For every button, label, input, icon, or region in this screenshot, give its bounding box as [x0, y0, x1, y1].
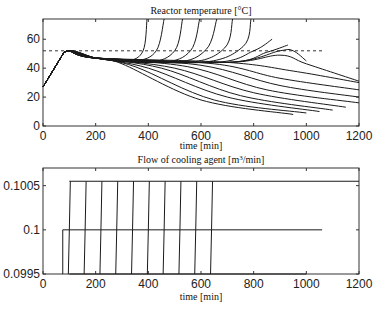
temperature-trajectory	[43, 19, 147, 87]
flow-mid-step	[63, 230, 322, 274]
x-tick-label: 200	[86, 129, 106, 143]
x-tick-label: 1000	[293, 129, 320, 143]
x-tick-label: 400	[138, 277, 158, 291]
flow-step-edge	[179, 181, 181, 274]
y-tick-label: 40	[27, 61, 41, 75]
flow-step-edge	[147, 181, 149, 274]
x-tick-label: 400	[138, 129, 158, 143]
cooling-flow-axes-box	[43, 168, 359, 274]
flow-step-edge	[116, 181, 118, 274]
cooling-flow-plot: Flow of cooling agent [m3/min] 020040060…	[3, 154, 372, 302]
x-tick-label: 1000	[293, 277, 320, 291]
temperature-x-label: time [min]	[180, 140, 223, 151]
x-tick-label: 200	[86, 277, 106, 291]
cooling-flow-x-label: time [min]	[180, 291, 223, 302]
x-tick-label: 0	[40, 277, 47, 291]
flow-step-edge	[68, 181, 70, 274]
cooling-flow-lines	[63, 181, 359, 274]
y-tick-label: 60	[27, 32, 41, 46]
y-tick-label: 0	[33, 119, 40, 133]
flow-step-edge	[195, 181, 197, 274]
flow-step-edge	[163, 181, 165, 274]
temperature-plot: Reactor temperature [°C] 020040060080010…	[27, 5, 373, 151]
cooling-flow-title: Flow of cooling agent [m3/min]	[138, 154, 265, 165]
x-tick-label: 600	[191, 277, 211, 291]
figure: Reactor temperature [°C] 020040060080010…	[0, 0, 379, 310]
temperature-trajectory	[43, 19, 200, 87]
temperature-trajectory	[43, 51, 333, 110]
temperature-lines	[43, 19, 359, 114]
temperature-x-ticks: 020040060080010001200	[40, 19, 373, 143]
flow-step-edge	[132, 181, 134, 274]
y-tick-label: 0.0995	[3, 267, 40, 281]
temperature-trajectory	[43, 51, 359, 103]
x-tick-label: 800	[244, 277, 264, 291]
x-tick-label: 1200	[346, 129, 373, 143]
y-tick-label: 0.1	[23, 223, 40, 237]
x-tick-label: 0	[40, 129, 47, 143]
x-tick-label: 800	[244, 129, 264, 143]
flow-step-edge	[100, 181, 102, 274]
temperature-trajectory	[43, 51, 346, 107]
flow-step-edge	[84, 181, 86, 274]
y-tick-label: 20	[27, 90, 41, 104]
x-tick-label: 1200	[346, 277, 373, 291]
flow-step-edge	[211, 181, 213, 274]
temperature-title: Reactor temperature [°C]	[150, 5, 251, 16]
y-tick-label: 0.1005	[3, 179, 40, 193]
temperature-trajectory	[43, 19, 217, 87]
